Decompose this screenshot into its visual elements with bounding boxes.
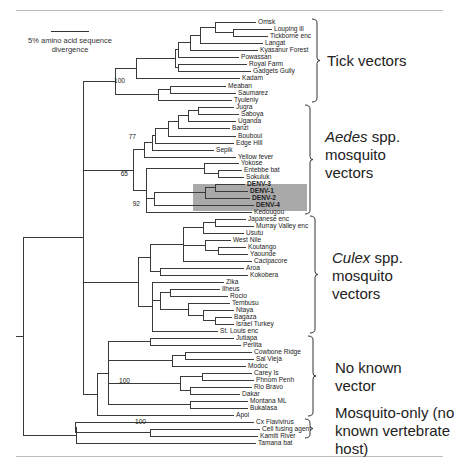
leaf-label: Usutu (246, 229, 264, 236)
brace-culex (310, 216, 318, 333)
leaf-label: Meaban (228, 82, 252, 89)
group-label-text: known vertebrate (335, 422, 450, 439)
leaf-label: Rio Bravo (254, 383, 283, 390)
leaf-label: Rocio (230, 292, 247, 299)
leaf-label: Modoc (248, 362, 268, 369)
phylogenetic-tree: OmskLouping illTickborne encLangatKyasan… (0, 0, 456, 472)
leaf-label: Bukalasa (250, 404, 277, 411)
leaf-label: Banzi (232, 124, 249, 131)
bootstrap-value: 92 (133, 200, 141, 207)
leaf-label: Aroa (246, 264, 260, 271)
leaf-label: Yokose (241, 159, 263, 166)
leaf-label: Phnom Penh (256, 376, 294, 383)
bootstrap-value: 65 (121, 170, 129, 177)
group-label-text: mosquito (325, 146, 386, 163)
leaf-label: Dakar (242, 390, 260, 397)
group-label-mosquito-only: Mosquito-only (no known vertebrate host) (335, 404, 454, 458)
leaf-label: Murray Valley enc (256, 222, 309, 230)
leaf-label: Bouboui (238, 132, 263, 139)
leaf-label: Tamana bat (258, 439, 293, 446)
brace-no-known-vector (308, 336, 316, 416)
group-label-text: spp. (370, 249, 403, 266)
leaf-label: Tembusu (232, 299, 259, 306)
leaf-label: Zika (226, 278, 239, 285)
group-label-text: vectors (332, 285, 380, 302)
leaf-label: Montana ML (250, 397, 287, 404)
leaf-label: Perlita (243, 341, 262, 348)
leaf-label: Apoi (236, 411, 250, 419)
leaf-label: DENV-2 (252, 194, 276, 201)
bootstrap-value: 100 (119, 377, 130, 384)
group-label-text: Tick vectors (327, 52, 406, 69)
genus-italic: Culex (332, 249, 370, 266)
leaf-label: Edge Hill (236, 139, 263, 147)
leaf-label: Yaounde (250, 250, 276, 257)
leaf-label: Powassan (241, 53, 272, 60)
group-label-aedes: Aedes spp. mosquito vectors (325, 128, 400, 182)
leaf-label: Saumarez (238, 89, 268, 96)
leaf-label: Sepik (216, 146, 233, 154)
group-label-text: Mosquito-only (no (335, 404, 454, 421)
bootstrap-value: 77 (129, 133, 137, 140)
group-label-tick-vectors: Tick vectors (327, 52, 406, 70)
group-label-no-known-vector: No known vector (335, 359, 402, 395)
group-label-text: vectors (325, 164, 373, 181)
leaf-label: Omsk (258, 18, 276, 25)
leaf-label: Cx Flavivirus (256, 418, 294, 425)
group-label-text: spp. (368, 128, 401, 145)
leaf-label: Tickborne enc (270, 32, 312, 39)
brace-tick-vectors (312, 19, 320, 102)
group-label-text: host) (335, 440, 368, 457)
genus-italic: Aedes (325, 128, 368, 145)
leaf-label: DENV-3 (247, 180, 271, 187)
leaf-label: DENV-1 (250, 187, 274, 194)
leaf-label: Entebbe bat (244, 166, 280, 173)
leaf-label: DENV-4 (256, 201, 280, 208)
leaf-label: Ilheus (222, 285, 240, 292)
leaf-label: St. Louis enc (220, 327, 259, 334)
leaf-label: Kadam (242, 74, 263, 81)
group-label-text: vector (335, 377, 376, 394)
group-label-culex: Culex spp. mosquito vectors (332, 249, 403, 303)
leaf-label: Kamiti River (260, 432, 296, 439)
group-label-text: mosquito (332, 267, 393, 284)
bootstrap-value: 100 (135, 418, 146, 425)
leaf-label: Kokobera (250, 271, 279, 278)
group-label-text: No known (335, 359, 402, 376)
bootstrap-value: 100 (114, 77, 125, 84)
leaf-label: West Nile (233, 236, 261, 243)
leaf-label: Sokuluk (246, 173, 270, 180)
